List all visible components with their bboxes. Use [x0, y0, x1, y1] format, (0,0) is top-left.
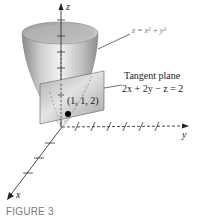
figure-caption: FIGURE 3 [6, 206, 54, 217]
tangent-plane-equation: 2x + 2y − z = 2 [122, 84, 183, 94]
plane-leader-line [104, 85, 122, 88]
y-axis [62, 122, 189, 131]
z-axis-label: z [66, 2, 70, 12]
x-axis-label: x [16, 190, 20, 200]
diagram-canvas [0, 0, 199, 224]
figure-3: z y x z = x² + y² Tangent plane 2x + 2y … [0, 0, 199, 224]
tangent-point [65, 111, 71, 117]
surface-leader-line [98, 34, 130, 49]
surface-equation-label: z = x² + y² [132, 27, 166, 35]
tangent-plane-title: Tangent plane [124, 71, 180, 81]
point-label: (1, 1, 2) [67, 96, 99, 106]
y-axis-label: y [182, 130, 186, 140]
